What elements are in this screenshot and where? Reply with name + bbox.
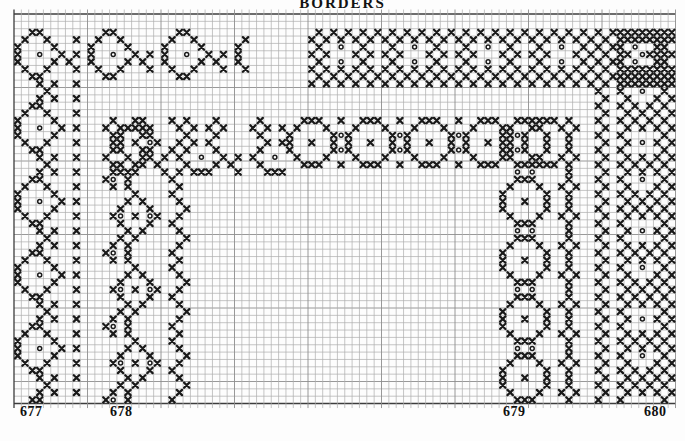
chart-area (0, 0, 685, 441)
pattern-book-page: BORDERS 677 678 679 680 (0, 0, 685, 441)
design-number: 680 (644, 404, 667, 420)
design-number: 679 (503, 404, 526, 420)
design-number: 677 (20, 404, 43, 420)
design-number: 678 (110, 404, 133, 420)
stitch-chart (0, 0, 685, 441)
